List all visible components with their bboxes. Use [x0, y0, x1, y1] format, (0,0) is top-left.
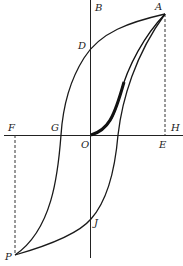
label-O: O	[81, 139, 89, 150]
diagram-canvas: A B D F G H O E J P	[0, 0, 183, 266]
hysteresis-diagram: A B D F G H O E J P	[0, 0, 183, 266]
label-B: B	[94, 2, 102, 13]
label-J: J	[92, 217, 99, 228]
label-P: P	[4, 251, 12, 262]
label-G: G	[51, 122, 59, 133]
initial-magnetization-curve	[91, 14, 165, 135]
label-H: H	[170, 122, 180, 133]
label-A: A	[154, 1, 162, 12]
label-E: E	[158, 139, 167, 150]
label-D: D	[77, 40, 86, 51]
label-F: F	[7, 122, 16, 133]
